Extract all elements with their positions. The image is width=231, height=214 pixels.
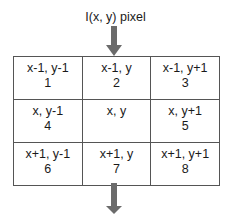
grid-row: x+1, y-16 x+1, y7 x+1, y+18 bbox=[14, 143, 220, 186]
grid-row: x, y-14 x, y x, y+15 bbox=[14, 100, 220, 143]
cell-index: 6 bbox=[14, 162, 82, 177]
cell-coord: x, y+1 bbox=[151, 100, 219, 119]
grid-cell: x, y-14 bbox=[14, 100, 83, 143]
cell-coord: x-1, y-1 bbox=[14, 57, 82, 76]
cell-coord: x-1, y bbox=[83, 57, 151, 76]
diagram-title: I(x, y) pixel bbox=[0, 10, 231, 24]
cell-coord: x, y-1 bbox=[14, 100, 82, 119]
grid-cell: x+1, y-16 bbox=[14, 143, 83, 186]
cell-index: 2 bbox=[83, 76, 151, 91]
cell-index: 3 bbox=[151, 76, 219, 91]
cell-coord: x+1, y+1 bbox=[151, 143, 219, 162]
grid-cell-center: x, y bbox=[82, 100, 151, 143]
grid-cell: x-1, y+13 bbox=[151, 57, 220, 100]
grid-cell: x-1, y2 bbox=[82, 57, 151, 100]
cell-index: 7 bbox=[83, 162, 151, 177]
cell-index: 8 bbox=[151, 162, 219, 177]
grid-cell: x-1, y-11 bbox=[14, 57, 83, 100]
grid-cell: x+1, y7 bbox=[82, 143, 151, 186]
grid-cell: x+1, y+18 bbox=[151, 143, 220, 186]
cell-coord: x-1, y+1 bbox=[151, 57, 219, 76]
cell-coord: x+1, y bbox=[83, 143, 151, 162]
cell-coord: x+1, y-1 bbox=[14, 143, 82, 162]
cell-coord: x, y bbox=[83, 100, 151, 119]
grid-cell: x, y+15 bbox=[151, 100, 220, 143]
grid-row: x-1, y-11 x-1, y2 x-1, y+13 bbox=[14, 57, 220, 100]
cell-index: 4 bbox=[14, 119, 82, 134]
arrow-down-icon bbox=[104, 183, 124, 214]
cell-index: 5 bbox=[151, 119, 219, 134]
cell-index: 1 bbox=[14, 76, 82, 91]
neighborhood-grid: x-1, y-11 x-1, y2 x-1, y+13 x, y-14 x, y… bbox=[13, 56, 220, 186]
arrow-down-icon bbox=[104, 26, 124, 56]
